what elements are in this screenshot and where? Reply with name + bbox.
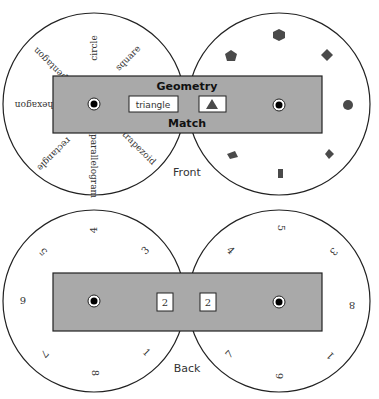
back-left-number-8: 8 [90,370,101,376]
back-right-number-8: 8 [349,300,355,311]
front-word-window-text: triangle [136,100,171,110]
front-left-pivot [88,98,100,110]
back-caption: Back [174,362,201,375]
back-right-number-6: 6 [274,373,285,379]
back-panel: 4 5 9 7 8 1 3 5 4 3 8 1 6 7 2 2 Back [3,210,370,392]
front-panel: circle square hexagon pentagon rectangle… [3,13,370,199]
back-right-window-value: 2 [205,297,211,308]
label-hexagon: hexagon [15,100,54,110]
label-parallelogram: parallelogram [89,134,99,199]
front-caption: Front [173,166,202,179]
back-right-number-5: 5 [276,225,287,231]
back-left-number-4: 4 [88,227,99,233]
back-left-pivot [88,295,100,307]
back-left-number-9: 9 [20,295,26,306]
rectangle-icon [278,169,283,178]
front-title-match: Match [168,117,206,130]
circle-icon [343,100,353,110]
front-right-pivot [273,99,285,111]
back-left-window-value: 2 [162,297,168,308]
geometry-match-diagram: circle square hexagon pentagon rectangle… [0,0,379,399]
back-right-pivot [273,296,285,308]
front-title-geometry: Geometry [157,80,218,93]
label-circle: circle [89,35,99,60]
